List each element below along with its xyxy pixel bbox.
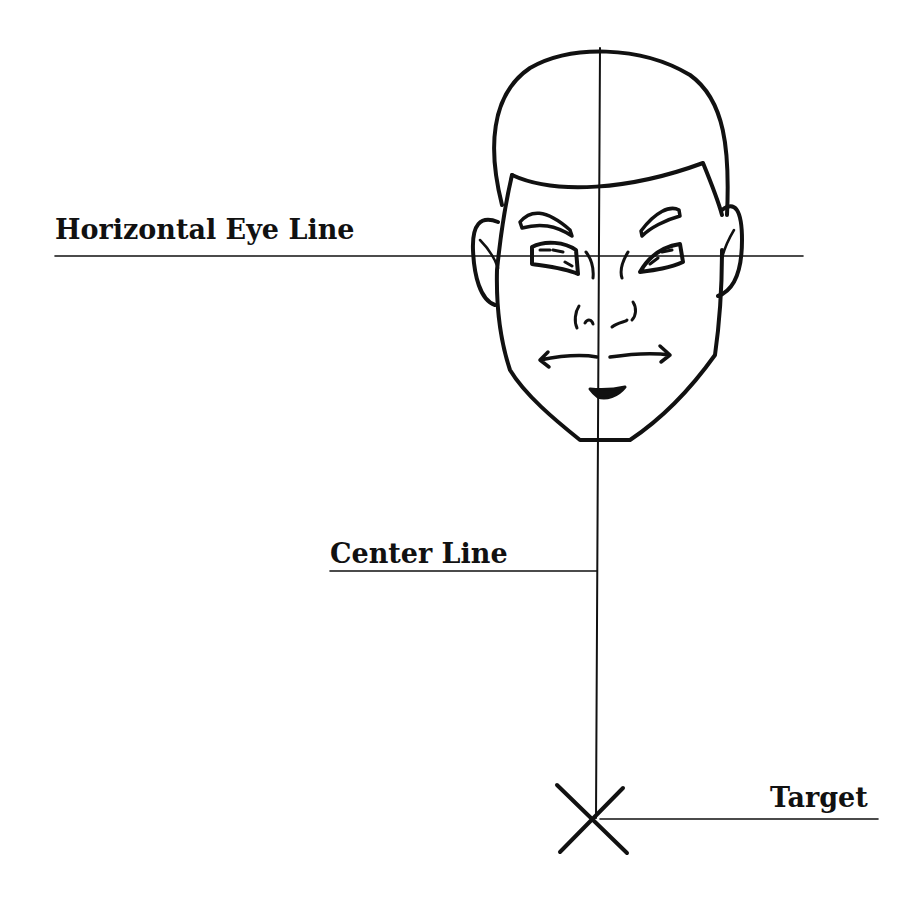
nose-right <box>612 302 636 327</box>
center-line-label: Center Line <box>330 540 508 567</box>
left-eye <box>532 243 578 274</box>
center-line <box>596 48 600 818</box>
nose-left <box>575 306 593 328</box>
right-ear-inner <box>722 230 734 258</box>
mouth-right <box>610 346 670 362</box>
chin-mark <box>590 387 625 398</box>
right-eye <box>640 244 683 272</box>
left-ear <box>473 220 498 305</box>
left-eye-highlights <box>540 250 572 266</box>
head-outline <box>494 52 728 215</box>
face-proportion-diagram: Horizontal Eye Line Center Line Target <box>0 0 919 900</box>
right-eyebrow <box>641 208 680 236</box>
mouth-left <box>540 352 597 367</box>
hairline <box>512 163 722 215</box>
target-label: Target <box>770 784 868 811</box>
eye-line-label: Horizontal Eye Line <box>55 216 355 243</box>
left-ear-inner <box>480 240 498 268</box>
diagram-drawing <box>0 0 919 900</box>
left-eyebrow <box>520 213 572 236</box>
